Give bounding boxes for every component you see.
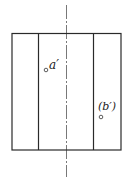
cylinder-front-view: a′ (b′) bbox=[0, 0, 129, 177]
point-a-label: a′ bbox=[49, 58, 59, 72]
point-b-label: (b′) bbox=[98, 100, 116, 113]
point-a-marker bbox=[44, 68, 48, 72]
point-b-marker bbox=[99, 115, 103, 119]
